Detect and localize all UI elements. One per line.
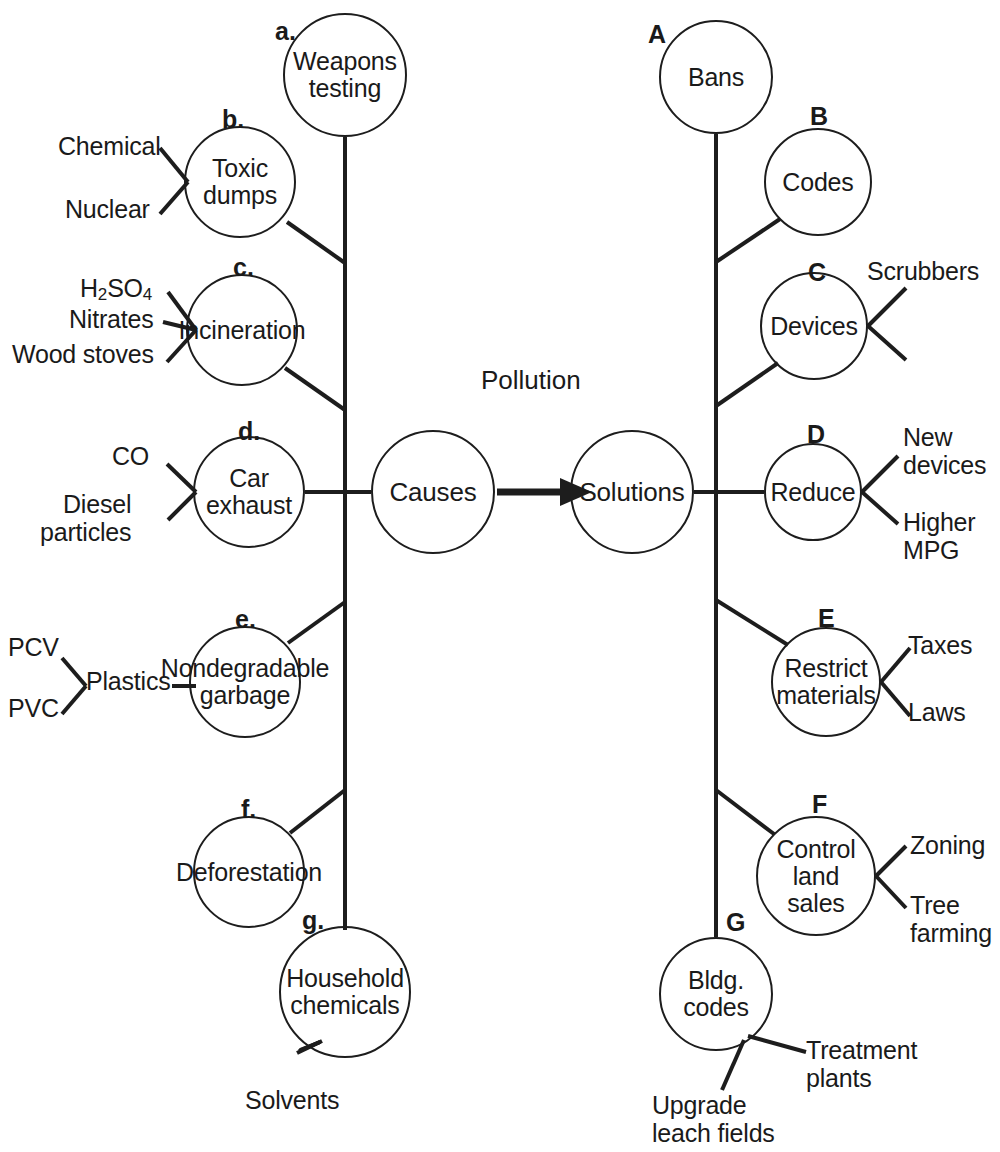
tag-e: e. [235,605,256,634]
node-deforestation[interactable]: Deforestation [193,816,305,928]
node-bldg-codes[interactable]: Bldg.codes [659,937,773,1051]
hub-solutions-label: Solutions [579,478,684,506]
node-nondegradable-garbage-label: Nondegradablegarbage [161,655,329,709]
node-devices[interactable]: Devices [760,272,868,380]
node-codes[interactable]: Codes [764,128,872,236]
tag-C: C [808,258,826,287]
leaf-solvents: Solvents [245,1087,339,1115]
node-control-land-sales[interactable]: Controllandsales [756,816,876,936]
leaf-wood-stoves: Wood stoves [12,341,154,369]
tag-f: f. [241,795,256,824]
node-car-exhaust[interactable]: Carexhaust [193,436,305,548]
leaf-diesel-particles: Dieselparticles [40,490,131,546]
tag-c: c. [233,253,254,282]
leaf-higher-mpg: HigherMPG [903,508,975,564]
hub-causes[interactable]: Causes [371,430,495,554]
tag-d: d. [238,417,260,446]
concept-map-diagram: Pollution Causes Solutions a. Weaponstes… [0,0,1000,1152]
leaf-nitrates: Nitrates [69,306,154,334]
leaf-nuclear: Nuclear [65,196,150,224]
tag-b: b. [222,105,244,134]
node-reduce-label: Reduce [771,479,856,506]
node-bans[interactable]: Bans [659,20,773,134]
leaf-co: CO [112,443,149,471]
hub-causes-label: Causes [390,478,477,506]
node-restrict-materials-label: Restrictmaterials [776,655,876,709]
leaf-laws: Laws [908,699,966,727]
leaf-treatment-plants: Treatmentplants [806,1036,917,1092]
leaf-pcv: PCV [8,634,59,662]
node-toxic-dumps-label: Toxicdumps [203,155,277,209]
leaf-scrubbers: Scrubbers [867,258,979,286]
node-car-exhaust-label: Carexhaust [206,465,292,519]
tag-G: G [726,908,745,937]
leaf-tree-farming: Treefarming [910,891,992,947]
node-reduce[interactable]: Reduce [764,443,862,541]
node-restrict-materials[interactable]: Restrictmaterials [771,627,881,737]
tag-E: E [818,604,835,633]
leaf-h2so4: H2SO4 [80,275,152,305]
leaf-chemical: Chemical [58,133,161,161]
leaf-plastics: Plastics [86,668,171,696]
node-bans-label: Bans [688,64,744,91]
hub-solutions[interactable]: Solutions [570,430,694,554]
node-household-chemicals[interactable]: Householdchemicals [279,926,411,1058]
tag-g: g. [302,906,324,935]
tag-A: A [648,20,666,49]
node-codes-label: Codes [782,169,853,196]
leaf-taxes: Taxes [908,632,972,660]
tag-D: D [807,420,825,449]
node-control-land-sales-label: Controllandsales [776,836,855,917]
leaf-new-devices: Newdevices [903,423,986,479]
node-incineration-label: Incineration [179,317,306,344]
node-deforestation-label: Deforestation [176,859,322,886]
tag-B: B [810,102,828,131]
leaf-upgrade-leach-fields: Upgradeleach fields [652,1091,775,1147]
node-bldg-codes-label: Bldg.codes [683,967,749,1021]
tag-F: F [812,790,827,819]
node-weapons-testing-label: Weaponstesting [293,48,397,102]
tag-a: a. [275,17,296,46]
node-devices-label: Devices [770,313,858,340]
node-toxic-dumps[interactable]: Toxicdumps [184,126,296,238]
node-incineration[interactable]: Incineration [186,274,298,386]
page-title: Pollution [481,365,581,396]
node-nondegradable-garbage[interactable]: Nondegradablegarbage [189,626,301,738]
node-weapons-testing[interactable]: Weaponstesting [283,13,407,137]
node-household-chemicals-label: Householdchemicals [286,965,404,1019]
leaf-zoning: Zoning [910,832,985,860]
leaf-pvc: PVC [8,695,59,723]
